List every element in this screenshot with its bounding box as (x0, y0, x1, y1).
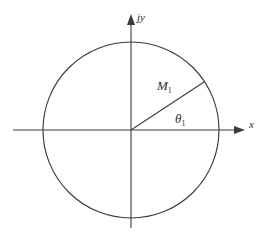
phasor-magnitude-subscript: 1 (168, 86, 172, 95)
figure-root: x jy M1 θ1 (0, 0, 277, 234)
phasor-angle-label: θ1 (175, 111, 185, 128)
x-axis-label: x (248, 118, 254, 130)
y-axis-label-y: y (139, 11, 145, 23)
phasor-magnitude-label: M1 (156, 78, 172, 95)
y-axis-arrow-icon (127, 14, 135, 25)
phasor-angle-subscript: 1 (181, 119, 185, 128)
x-axis-arrow-icon (234, 126, 245, 134)
complex-plane-diagram: x jy M1 θ1 (0, 0, 277, 234)
y-axis-label: jy (135, 11, 145, 23)
